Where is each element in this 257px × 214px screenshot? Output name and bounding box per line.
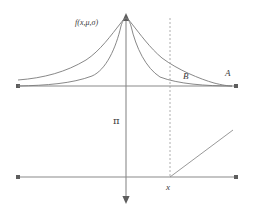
curve-b-label: B: [183, 71, 189, 81]
threshold-x-label: x: [165, 182, 170, 192]
lower-panel-ray: [170, 130, 233, 177]
lower-axis-left-endpoint-marker: [16, 175, 20, 179]
density-curve-b: [18, 18, 232, 86]
vertical-axis-bottom-arrowhead: [122, 196, 129, 204]
statistical-density-diagram: f(x,μ,σ) A B π x: [0, 0, 257, 214]
density-function-label: f(x,μ,σ): [75, 18, 98, 27]
density-curve-a: [18, 18, 232, 86]
upper-axis-right-endpoint-marker: [234, 84, 238, 88]
pi-label: π: [113, 115, 120, 126]
curve-a-label: A: [224, 68, 231, 78]
lower-axis-right-endpoint-marker: [234, 175, 238, 179]
